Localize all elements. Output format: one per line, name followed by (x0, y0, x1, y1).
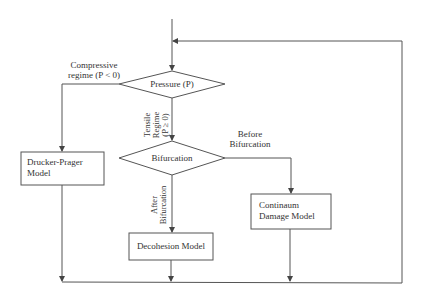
tensile-line3: (P ≥ 0) (161, 100, 170, 150)
before-line2: Bifurcation (222, 139, 278, 149)
before-line1: Before (222, 129, 278, 139)
drucker-prager-line2: Model (27, 168, 83, 179)
tensile-edge-label: Tensile Regime (P ≥ 0) (143, 100, 171, 150)
after-bifurcation-edge-label: After Bifurcation (150, 180, 170, 230)
compressive-line1: Compressive (64, 60, 124, 70)
flowchart-lines (0, 0, 423, 299)
compressive-line2: regime (P < 0) (64, 70, 124, 80)
before-bifurcation-label: Before Bifurcation (222, 129, 278, 149)
continuum-line1: Continaum (259, 200, 315, 211)
before-bifurcation-edge (225, 158, 291, 193)
compressive-edge (62, 84, 119, 151)
bifurcation-label: Bifurcation (119, 153, 225, 163)
compressive-edge-label: Compressive regime (P < 0) (64, 60, 124, 80)
drucker-prager-label: Drucker-Prager Model (27, 157, 83, 179)
after-line2: Bifurcation (159, 180, 168, 230)
pressure-label: Pressure (P) (119, 79, 225, 89)
continuum-line2: Damage Model (259, 211, 315, 222)
continuum-label: Continaum Damage Model (259, 200, 315, 222)
decohesion-label: Decohesion Model (129, 241, 213, 252)
drucker-prager-line1: Drucker-Prager (27, 157, 83, 168)
